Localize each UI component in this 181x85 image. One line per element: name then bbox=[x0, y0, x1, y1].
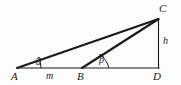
vertex-label-b: B bbox=[77, 71, 84, 82]
vertex-label-d: D bbox=[153, 71, 161, 82]
vertex-label-c: C bbox=[159, 3, 166, 14]
geometry-figure: A B D C m h α β bbox=[0, 0, 181, 85]
segment-label-m: m bbox=[46, 71, 53, 81]
angle-label-beta: β bbox=[99, 55, 104, 65]
angle-label-alpha: α bbox=[36, 57, 41, 67]
segment-bc bbox=[82, 19, 159, 68]
vertex-label-a: A bbox=[11, 71, 18, 82]
segment-label-h: h bbox=[163, 36, 168, 46]
